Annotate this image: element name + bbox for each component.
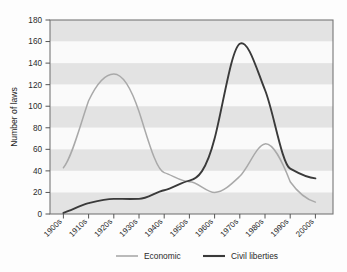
y-tick-label-140: 140 [28, 59, 42, 68]
y-tick-label-20: 20 [33, 188, 43, 197]
y-tick-label-160: 160 [28, 37, 42, 46]
band-40-60 [50, 149, 333, 171]
y-tick-label-40: 40 [33, 167, 43, 176]
band-60-80 [50, 128, 333, 150]
y-tick-label-180: 180 [28, 16, 42, 25]
legend-label-civil-liberties: Civil liberties [231, 251, 278, 261]
y-axis-label: Number of laws [9, 87, 19, 147]
chart-figure: 0 20 40 60 80 100 120 140 160 180 Number… [0, 0, 347, 272]
plot-area: 0 20 40 60 80 100 120 140 160 180 Number… [9, 16, 333, 239]
y-tick-label-0: 0 [37, 210, 42, 219]
line-chart: 0 20 40 60 80 100 120 140 160 180 Number… [0, 0, 347, 272]
band-160-180 [50, 20, 333, 42]
legend-label-economic: Economic [144, 251, 181, 261]
background-bands [50, 20, 333, 214]
band-80-100 [50, 106, 333, 128]
y-tick-label-80: 80 [33, 124, 43, 133]
y-tick-label-60: 60 [33, 145, 43, 154]
band-100-120 [50, 85, 333, 107]
y-tick-label-100: 100 [28, 102, 42, 111]
y-tick-label-120: 120 [28, 81, 42, 90]
band-140-160 [50, 42, 333, 64]
band-120-140 [50, 63, 333, 85]
